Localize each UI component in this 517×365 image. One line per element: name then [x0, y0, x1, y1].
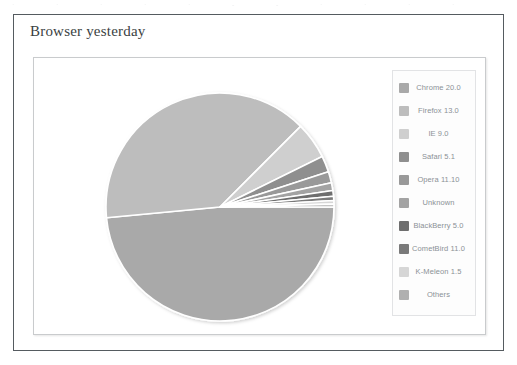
scan-mark: - — [276, 1, 278, 9]
pie-slices-group — [106, 93, 334, 321]
legend-swatch-icon — [399, 106, 409, 116]
legend-swatch-icon — [399, 129, 409, 139]
legend-item[interactable]: Others — [393, 283, 475, 306]
legend-item-label: Firefox 13.0 — [409, 106, 470, 115]
legend-item-label: IE 9.0 — [409, 129, 470, 138]
legend-item-label: Safari 5.1 — [409, 152, 470, 161]
legend-item[interactable]: CometBird 11.0 — [393, 237, 475, 260]
legend-item[interactable]: IE 9.0 — [393, 122, 475, 145]
legend-item[interactable]: BlackBerry 5.0 — [393, 214, 475, 237]
legend-item-label: Unknown — [409, 198, 470, 207]
scan-bleed-artifacts: ·····--···· — [0, 0, 517, 12]
legend-swatch-icon — [399, 221, 409, 231]
legend-item[interactable]: Opera 11.10 — [393, 168, 475, 191]
legend-swatch-icon — [399, 83, 409, 93]
scan-mark: · — [364, 1, 366, 9]
pie-slice[interactable] — [107, 207, 334, 321]
legend-swatch-icon — [399, 152, 409, 162]
scan-mark: · — [12, 1, 14, 9]
legend-swatch-icon — [399, 244, 409, 254]
scan-mark: · — [56, 1, 58, 9]
legend-swatch-icon — [399, 175, 409, 185]
legend-swatch-icon — [399, 267, 409, 277]
chart-legend: Chrome 20.0Firefox 13.0IE 9.0Safari 5.1O… — [392, 70, 476, 316]
legend-item-label: Chrome 20.0 — [409, 83, 470, 92]
legend-item[interactable]: Chrome 20.0 — [393, 76, 475, 99]
legend-item-label: CometBird 11.0 — [409, 244, 470, 253]
legend-swatch-icon — [399, 198, 409, 208]
legend-swatch-icon — [399, 290, 409, 300]
legend-item[interactable]: Firefox 13.0 — [393, 99, 475, 122]
scan-mark: · — [408, 1, 410, 9]
legend-item[interactable]: K-Meleon 1.5 — [393, 260, 475, 283]
scan-mark: · — [188, 1, 190, 9]
page-title: Browser yesterday — [30, 23, 145, 40]
scan-mark: · — [100, 1, 102, 9]
figure-frame: Browser yesterday Chrome 20.0Firefox 13.… — [13, 14, 504, 351]
legend-item-label: K-Meleon 1.5 — [409, 267, 470, 276]
legend-item-label: BlackBerry 5.0 — [409, 221, 470, 230]
chart-plot-panel: Chrome 20.0Firefox 13.0IE 9.0Safari 5.1O… — [33, 57, 486, 335]
scan-mark: - — [232, 1, 234, 9]
scan-mark: · — [452, 1, 454, 9]
scan-mark: · — [320, 1, 322, 9]
legend-item[interactable]: Unknown — [393, 191, 475, 214]
legend-item[interactable]: Safari 5.1 — [393, 145, 475, 168]
legend-item-label: Opera 11.10 — [409, 175, 470, 184]
scan-mark: · — [144, 1, 146, 9]
legend-item-label: Others — [409, 290, 470, 299]
